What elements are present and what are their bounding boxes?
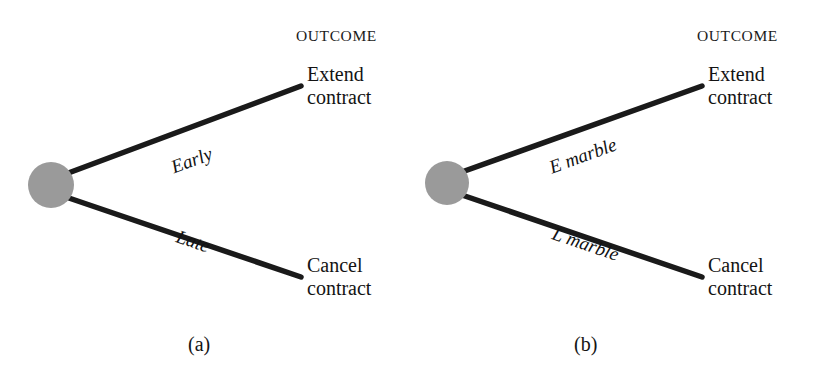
- leaf-label-lower-a: Cancel contract: [307, 254, 371, 300]
- tree-diagram-a: [0, 0, 411, 377]
- leaf-label-upper-b: Extend contract: [708, 63, 772, 109]
- leaf-line-1: Extend: [708, 63, 772, 86]
- leaf-label-upper-a: Extend contract: [307, 63, 371, 109]
- leaf-line-2: contract: [708, 86, 772, 109]
- leaf-line-1: Cancel: [307, 254, 371, 277]
- leaf-line-2: contract: [307, 277, 371, 300]
- tree-diagram-b: [411, 0, 822, 377]
- leaf-line-2: contract: [708, 277, 772, 300]
- leaf-label-lower-b: Cancel contract: [708, 254, 772, 300]
- leaf-line-1: Cancel: [708, 254, 772, 277]
- leaf-line-2: contract: [307, 86, 371, 109]
- caption-a: (a): [188, 333, 210, 356]
- chance-node-b[interactable]: [425, 161, 469, 205]
- leaf-line-1: Extend: [307, 63, 371, 86]
- decision-node-a[interactable]: [28, 162, 74, 208]
- panel-a: OUTCOME Extend contract Cancel contract …: [0, 0, 411, 377]
- figure-container: OUTCOME Extend contract Cancel contract …: [0, 0, 822, 377]
- panel-b: OUTCOME Extend contract Cancel contract …: [411, 0, 822, 377]
- outcome-heading-b: OUTCOME: [697, 27, 778, 45]
- outcome-heading-a: OUTCOME: [296, 27, 377, 45]
- caption-b: (b): [574, 333, 597, 356]
